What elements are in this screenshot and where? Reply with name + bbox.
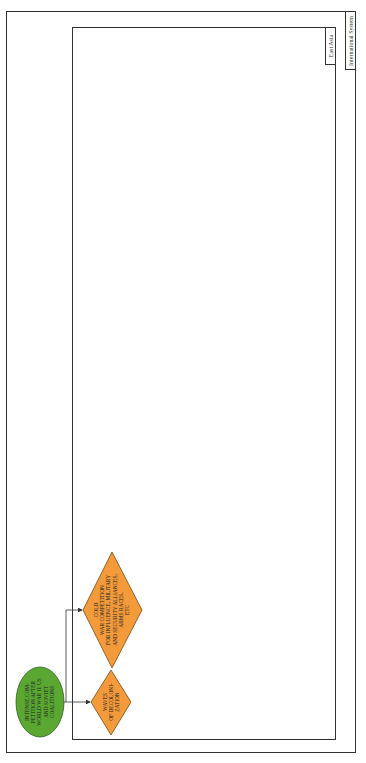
cold-war-node-text: COLD WAR COMPETITION FOR INFLUENCE, MILI… xyxy=(93,574,130,646)
diagram-canvas xyxy=(0,0,366,763)
start-node-text: INTENSE COM- PETITION AFTER WORLD WAR II… xyxy=(24,678,55,726)
connector-start-to-cold-war xyxy=(63,610,82,702)
decolonization-node-text: WAVES OF DECOLONI- ZATION xyxy=(102,683,121,721)
